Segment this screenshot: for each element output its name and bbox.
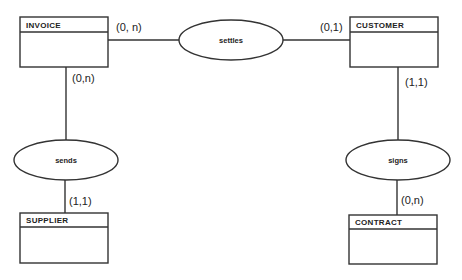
entity-supplier-title: SUPPLIER bbox=[26, 216, 68, 225]
relationship-sends[interactable]: sends bbox=[14, 140, 118, 180]
entity-invoice[interactable]: INVOICE bbox=[20, 17, 108, 67]
relationship-settles[interactable]: settles bbox=[179, 20, 283, 60]
er-diagram: INVOICE CUSTOMER SUPPLIER CONTRACT settl… bbox=[0, 0, 462, 280]
entity-contract-title: CONTRACT bbox=[355, 218, 402, 227]
cardinality-contract-signs: (0,n) bbox=[401, 194, 424, 206]
entity-invoice-title: INVOICE bbox=[26, 21, 61, 30]
entity-customer[interactable]: CUSTOMER bbox=[350, 17, 438, 67]
entity-supplier[interactable]: SUPPLIER bbox=[20, 213, 108, 263]
cardinality-customer-settles: (0,1) bbox=[320, 21, 343, 33]
entity-contract[interactable]: CONTRACT bbox=[349, 215, 437, 264]
cardinality-customer-signs: (1,1) bbox=[405, 76, 428, 88]
cardinality-invoice-settles: (0, n) bbox=[116, 21, 142, 33]
entity-customer-title: CUSTOMER bbox=[356, 21, 404, 30]
relationship-settles-label: settles bbox=[219, 36, 243, 45]
cardinality-invoice-sends: (0,n) bbox=[72, 72, 95, 84]
relationship-signs[interactable]: signs bbox=[346, 140, 450, 180]
relationship-signs-label: signs bbox=[388, 156, 408, 165]
relationship-sends-label: sends bbox=[55, 156, 77, 165]
cardinality-supplier-sends: (1,1) bbox=[69, 195, 92, 207]
